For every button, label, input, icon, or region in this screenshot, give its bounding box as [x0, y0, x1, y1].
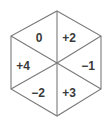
segment-label-bottom-left: −2 — [31, 86, 45, 100]
segment-label-left: +4 — [16, 59, 30, 73]
segment-label-bottom-right: +3 — [62, 86, 76, 100]
segment-label-right: −1 — [81, 59, 95, 73]
segment-label-top-right: +2 — [62, 31, 76, 45]
segment-label-top-left: 0 — [36, 31, 43, 45]
hexagon-spinner-diagram: 0 +2 −1 +3 −2 +4 — [0, 0, 108, 124]
